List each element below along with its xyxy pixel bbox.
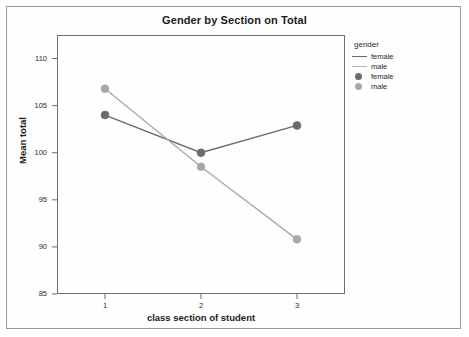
y-tick-label: 100: [21, 148, 47, 157]
x-tick-label: 2: [191, 301, 211, 310]
chart-title: Gender by Section on Total: [0, 14, 469, 26]
y-tick-label: 90: [21, 242, 47, 251]
legend-entry: female: [352, 52, 452, 61]
legend-line-swatch: [352, 52, 368, 61]
y-tick-label: 95: [21, 195, 47, 204]
line-icon: [352, 66, 367, 67]
legend-entry: female: [352, 72, 452, 81]
legend-title: gender: [352, 40, 452, 49]
legend-entry-label: female: [371, 52, 394, 61]
x-tick-label: 3: [287, 301, 307, 310]
x-tick-label: 1: [95, 301, 115, 310]
y-axis-title: Mean total: [17, 101, 28, 181]
circle-marker-icon: [355, 73, 362, 80]
y-tick-label: 105: [21, 101, 47, 110]
legend: gender femalemalefemalemale: [352, 40, 452, 92]
legend-marker-swatch: [352, 82, 368, 91]
plot-area-frame: [57, 35, 345, 294]
legend-entry-label: female: [371, 72, 394, 81]
legend-entry-label: male: [371, 62, 387, 71]
y-tick-label: 110: [21, 54, 47, 63]
y-tick-label: 85: [21, 289, 47, 298]
legend-line-swatch: [352, 62, 368, 71]
line-icon: [352, 56, 367, 57]
circle-marker-icon: [355, 83, 362, 90]
legend-entry-list: femalemalefemalemale: [352, 52, 452, 91]
legend-entry: male: [352, 82, 452, 91]
legend-entry: male: [352, 62, 452, 71]
x-axis-title: class section of student: [57, 312, 345, 323]
legend-entry-label: male: [371, 82, 387, 91]
legend-marker-swatch: [352, 72, 368, 81]
